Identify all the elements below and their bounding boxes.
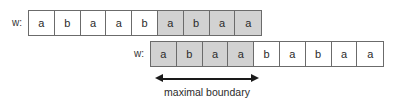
cell: b (306, 42, 332, 66)
cell: b (254, 42, 280, 66)
cell: a (357, 42, 383, 66)
cell-shaded: b (177, 42, 203, 66)
row-label-top: w: (12, 18, 22, 28)
word-row-top: w: a b a a b a b a a (12, 10, 262, 36)
arrow-shaft (161, 78, 253, 80)
word-row-bottom: w: a b a a b a b a a (134, 41, 384, 67)
cell-shaded: a (235, 11, 261, 35)
row-label-bottom: w: (134, 49, 144, 59)
cell: a (280, 42, 306, 66)
cell: a (332, 42, 358, 66)
boundary-annotation: maximal boundary (155, 74, 259, 99)
arrow-right-head-icon (251, 74, 259, 82)
cell-shaded: a (151, 42, 177, 66)
cell-shaded: b (184, 11, 210, 35)
cell: b (55, 11, 81, 35)
tape-bottom: a b a a b a b a a (150, 41, 384, 67)
cell-shaded: a (158, 11, 184, 35)
cell-shaded: a (228, 42, 254, 66)
boundary-caption: maximal boundary (155, 86, 259, 99)
cell: b (132, 11, 158, 35)
cell: a (106, 11, 132, 35)
maximal-boundary-diagram: w: a b a a b a b a a w: a b a a b a b a … (0, 0, 402, 108)
cell: a (29, 11, 55, 35)
double-arrow-icon (155, 74, 259, 83)
cell: a (81, 11, 107, 35)
cell-shaded: a (203, 42, 229, 66)
cell-shaded: a (210, 11, 236, 35)
tape-top: a b a a b a b a a (28, 10, 262, 36)
